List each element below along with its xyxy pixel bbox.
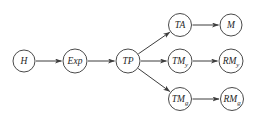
node-label: TA	[175, 20, 186, 30]
edge-tp-tmg	[138, 69, 170, 92]
node-label-text: TP	[122, 56, 133, 66]
node-label: M	[226, 20, 236, 30]
node-ta: TA	[169, 14, 192, 37]
node-tm-y: TMy	[168, 49, 192, 73]
node-tm-g: TMg	[169, 88, 192, 111]
graph-diagram: H Exp TP TA M TMy RMy TMg	[0, 0, 256, 114]
node-label-text: Exp	[67, 56, 83, 66]
edge-tp-ta	[138, 32, 170, 54]
node-exp: Exp	[63, 49, 87, 73]
node-h: H	[13, 50, 35, 72]
node-label-text: H	[20, 56, 29, 66]
node-label-text: M	[226, 20, 236, 30]
node-label-subscript: g	[237, 99, 241, 106]
diagram-canvas: H Exp TP TA M TMy RMy TMg	[0, 0, 256, 114]
node-label: H	[20, 56, 29, 66]
node-label-text: RM	[222, 56, 238, 66]
node-m: M	[220, 14, 242, 36]
node-label-text: TM	[172, 94, 186, 104]
node-label: Exp	[67, 56, 83, 66]
node-label-text: RM	[222, 94, 238, 104]
node-rm-g: RMg	[221, 88, 244, 111]
node-label-subscript: g	[185, 99, 189, 106]
node-label-text: TM	[172, 56, 186, 66]
node-label-text: TA	[175, 20, 186, 30]
node-rm-y: RMy	[219, 49, 243, 73]
node-label: TP	[122, 56, 133, 66]
node-tp: TP	[116, 49, 140, 73]
